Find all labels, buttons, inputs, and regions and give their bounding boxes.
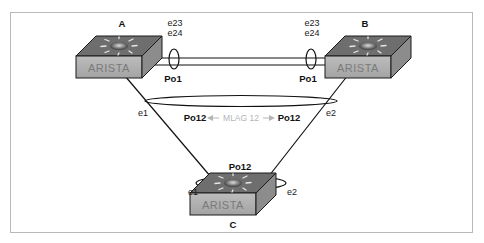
- a-port-e1: e1: [138, 108, 148, 118]
- switch-b-brand: ARISTA: [337, 62, 379, 74]
- a-po12-label: Po12: [184, 112, 207, 123]
- b-port-e2: e2: [326, 108, 336, 118]
- b-po1-label: Po1: [299, 73, 317, 84]
- c-po12-label: Po12: [229, 161, 252, 172]
- c-port-e1: e1: [188, 187, 198, 197]
- a-port-e24: e24: [167, 28, 182, 38]
- b-po12-label: Po12: [278, 112, 301, 123]
- b-port-e23: e23: [304, 18, 319, 28]
- c-port-e2: e2: [287, 187, 297, 197]
- switch-c-brand: ARISTA: [202, 199, 244, 211]
- switch-a-label: A: [119, 18, 126, 29]
- switch-b-label: B: [362, 18, 369, 29]
- switch-c-label: C: [230, 219, 237, 230]
- b-port-e24: e24: [304, 28, 319, 38]
- network-diagram: ARISTA ARISTA ARISTA A B C e23 e24 e23 e…: [0, 0, 484, 243]
- a-port-e23: e23: [167, 18, 182, 28]
- switch-a-brand: ARISTA: [88, 62, 130, 74]
- mlag-name: MLAG 12: [223, 113, 259, 123]
- a-po1-label: Po1: [164, 73, 182, 84]
